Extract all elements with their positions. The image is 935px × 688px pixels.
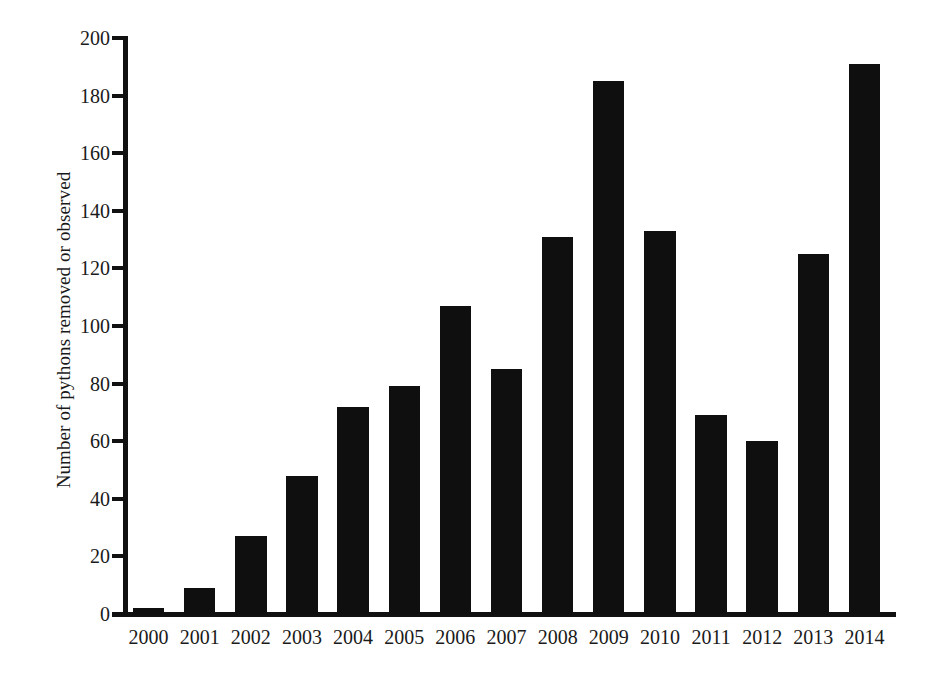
bar-rect	[695, 415, 726, 614]
bar	[849, 38, 880, 614]
y-tick-mark	[112, 324, 124, 328]
y-tick-label: 20	[52, 546, 110, 566]
x-tick-label: 2010	[634, 624, 685, 650]
y-tick-mark	[112, 209, 124, 213]
bar	[184, 38, 215, 614]
bar	[440, 38, 471, 614]
bar	[542, 38, 573, 614]
bar	[235, 38, 266, 614]
y-tick-label: 0	[52, 604, 110, 624]
bar-rect	[644, 231, 675, 614]
bar-rect	[286, 476, 317, 614]
x-tick-label: 2014	[839, 624, 890, 650]
y-tick-mark	[112, 439, 124, 443]
y-tick-mark	[112, 151, 124, 155]
x-tick-label: 2000	[123, 624, 174, 650]
y-tick-label: 60	[52, 431, 110, 451]
bar-rect	[542, 237, 573, 614]
bar-rect	[440, 306, 471, 614]
x-tick-label: 2012	[737, 624, 788, 650]
x-tick-label: 2009	[583, 624, 634, 650]
y-tick-label: 80	[52, 374, 110, 394]
bar	[644, 38, 675, 614]
x-tick-label: 2002	[225, 624, 276, 650]
x-tick-label: 2004	[328, 624, 379, 650]
bar-rect	[849, 64, 880, 614]
bar	[491, 38, 522, 614]
bar-rect	[746, 441, 777, 614]
x-axis-tick-labels: 2000200120022003200420052006200720082009…	[123, 624, 890, 658]
bar	[593, 38, 624, 614]
x-tick-label: 2013	[788, 624, 839, 650]
x-tick-label: 2007	[481, 624, 532, 650]
x-tick-label: 2003	[276, 624, 327, 650]
x-tick-label: 2001	[174, 624, 225, 650]
bar	[337, 38, 368, 614]
x-tick-label: 2005	[379, 624, 430, 650]
bar-rect	[491, 369, 522, 614]
bar-rect	[235, 536, 266, 614]
bar-rect	[593, 81, 624, 614]
bar	[389, 38, 420, 614]
bar-rect	[798, 254, 829, 614]
y-tick-label: 180	[52, 86, 110, 106]
bar-rect	[133, 608, 164, 614]
y-tick-label: 120	[52, 258, 110, 278]
bar	[746, 38, 777, 614]
y-tick-label: 140	[52, 201, 110, 221]
bar	[286, 38, 317, 614]
y-tick-mark	[112, 497, 124, 501]
y-tick-label: 100	[52, 316, 110, 336]
y-axis-tick-labels: 020406080100120140160180200	[52, 0, 110, 688]
bar-chart-figure: Number of pythons removed or observed 02…	[0, 0, 935, 688]
bar-series	[123, 38, 890, 614]
bar-rect	[389, 386, 420, 614]
y-tick-mark	[112, 36, 124, 40]
y-tick-mark	[112, 94, 124, 98]
y-tick-mark	[112, 612, 124, 616]
bar	[798, 38, 829, 614]
bar-rect	[337, 407, 368, 614]
bar	[133, 38, 164, 614]
x-tick-label: 2011	[685, 624, 736, 650]
bar-rect	[184, 588, 215, 614]
x-tick-label: 2006	[430, 624, 481, 650]
y-tick-label: 40	[52, 489, 110, 509]
x-tick-label: 2008	[532, 624, 583, 650]
y-tick-mark	[112, 382, 124, 386]
bar	[695, 38, 726, 614]
y-tick-label: 160	[52, 143, 110, 163]
y-tick-mark	[112, 554, 124, 558]
y-tick-mark	[112, 266, 124, 270]
y-tick-label: 200	[52, 28, 110, 48]
